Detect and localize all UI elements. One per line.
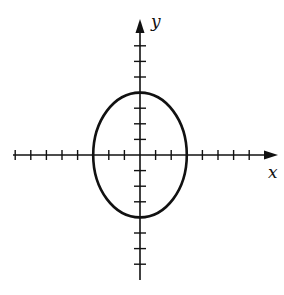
- y-axis-label: y: [150, 11, 161, 31]
- coordinate-plane: x y: [0, 0, 284, 295]
- x-axis-label: x: [268, 162, 278, 182]
- axes: [13, 19, 278, 280]
- x-axis-arrow-icon: [264, 151, 278, 160]
- y-axis-arrow-icon: [136, 19, 145, 33]
- ellipse-diagram: x y: [0, 0, 284, 295]
